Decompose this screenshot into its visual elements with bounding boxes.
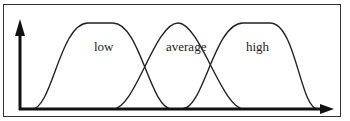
- label-high: high: [246, 39, 270, 54]
- y-axis-arrow-icon: [15, 19, 25, 36]
- membership-function-diagram: low average high: [0, 0, 350, 121]
- curve-low: [32, 23, 172, 109]
- x-axis-arrow-icon: [320, 104, 334, 114]
- curve-high: [182, 23, 318, 109]
- label-low: low: [94, 39, 114, 54]
- frame-border: [4, 5, 341, 117]
- label-average: average: [166, 39, 207, 54]
